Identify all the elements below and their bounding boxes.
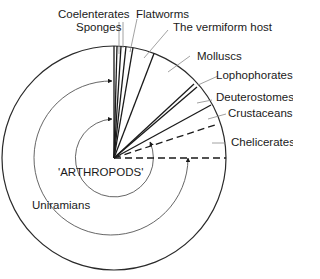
label-arthropods: 'ARTHROPODS' <box>58 167 143 179</box>
label-molluscs: Molluscs <box>197 51 242 63</box>
label-sponges: Sponges <box>76 22 121 34</box>
leader-lines <box>119 19 226 143</box>
radial-lines <box>114 46 226 158</box>
label-coelenterates: Coelenterates <box>58 9 130 21</box>
label-vermiform-host: The vermiform host <box>173 22 272 34</box>
label-crustaceans: Crustaceans <box>228 108 293 120</box>
label-flatworms: Flatworms <box>136 9 189 21</box>
label-lophophorates: Lophophorates <box>216 70 293 82</box>
label-deuterostomes: Deuterostomes <box>216 92 293 104</box>
label-uniramians: Uniramians <box>32 200 90 212</box>
label-chelicerates: Chelicerates <box>231 137 293 149</box>
